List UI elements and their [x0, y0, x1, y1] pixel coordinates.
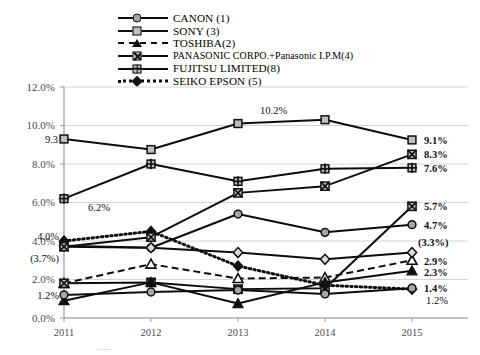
- data-point[interactable]: [233, 261, 242, 271]
- data-point[interactable]: [408, 221, 416, 229]
- data-label: 1.2%: [37, 290, 59, 301]
- x-axis-tick-label: 2013: [228, 327, 249, 338]
- data-point[interactable]: [234, 120, 242, 128]
- data-point[interactable]: [147, 146, 155, 154]
- series-line: [64, 214, 412, 248]
- data-point[interactable]: [234, 210, 242, 218]
- caption-text: ......: [0, 339, 480, 355]
- data-label: 2.9%: [424, 256, 448, 267]
- y-axis-tick-label: 10.0%: [27, 119, 55, 131]
- data-point[interactable]: [407, 248, 416, 258]
- x-axis-tick-label: 2012: [141, 327, 162, 338]
- data-label: 4.0%: [37, 231, 59, 242]
- data-point[interactable]: [321, 182, 330, 191]
- data-point[interactable]: [408, 284, 416, 292]
- data-point[interactable]: [321, 290, 329, 298]
- data-label: 4.7%: [424, 220, 448, 231]
- data-point[interactable]: [408, 202, 417, 211]
- data-label: 1.2%: [426, 295, 448, 306]
- data-label: 10.2%: [260, 105, 287, 116]
- data-point[interactable]: [321, 116, 329, 124]
- data-point[interactable]: [234, 286, 242, 294]
- x-axis-tick-label: 2011: [54, 327, 75, 338]
- series-1: [60, 116, 416, 154]
- data-point[interactable]: [147, 288, 155, 296]
- data-label: 8.3%: [424, 149, 448, 160]
- data-point[interactable]: [320, 164, 330, 174]
- y-axis-tick-label: 0.0%: [32, 312, 55, 324]
- data-label: 9.1%: [424, 135, 448, 146]
- y-axis-tick-label: 2.0%: [32, 273, 55, 285]
- data-point[interactable]: [407, 163, 417, 173]
- data-point[interactable]: [233, 248, 242, 258]
- data-point[interactable]: [59, 193, 69, 203]
- series-0: [60, 210, 416, 251]
- x-axis-tick-label: 2014: [315, 327, 337, 338]
- chart-root: CANON (1) SONY (3) TOSHIBA(2) PANASONIC …: [0, 0, 480, 355]
- data-point[interactable]: [408, 136, 416, 144]
- data-label: 9.3: [45, 134, 58, 145]
- data-point[interactable]: [60, 135, 68, 143]
- data-point[interactable]: [320, 254, 329, 264]
- series-5: [59, 226, 416, 294]
- data-point[interactable]: [321, 228, 329, 236]
- data-label: 7.6%: [424, 163, 448, 174]
- data-label: (3.7%): [30, 253, 59, 265]
- line-chart-svg: 0.0%2.0%4.0%6.0%8.0%10.0%12.0%2011201220…: [0, 0, 480, 355]
- y-axis-tick-label: 12.0%: [27, 81, 55, 93]
- figure-caption: ......: [0, 339, 480, 355]
- data-point[interactable]: [60, 279, 69, 288]
- data-point[interactable]: [60, 291, 68, 299]
- data-point[interactable]: [408, 150, 417, 159]
- y-axis-tick-label: 6.0%: [32, 196, 55, 208]
- data-point[interactable]: [233, 176, 243, 186]
- data-label: 1.4%: [424, 283, 448, 294]
- data-label: 2.3%: [424, 267, 448, 278]
- data-point[interactable]: [146, 159, 156, 169]
- data-point[interactable]: [146, 259, 156, 268]
- data-point[interactable]: [147, 233, 156, 242]
- data-point[interactable]: [60, 242, 69, 251]
- data-label: 6.2%: [88, 202, 110, 213]
- data-label: 5.7%: [424, 201, 448, 212]
- plot-area: 0.0%2.0%4.0%6.0%8.0%10.0%12.0%2011201220…: [0, 0, 480, 355]
- data-point[interactable]: [234, 188, 243, 197]
- y-axis-tick-label: 8.0%: [32, 158, 55, 170]
- data-label: (3.3%): [418, 237, 449, 249]
- x-axis-tick-label: 2015: [402, 327, 423, 338]
- data-point[interactable]: [146, 243, 155, 253]
